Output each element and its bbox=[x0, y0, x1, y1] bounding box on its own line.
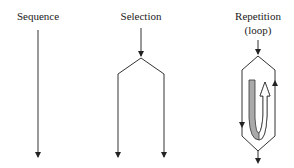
loop-down-arrowhead-icon bbox=[239, 122, 245, 128]
repetition-entry-arrowhead-icon bbox=[255, 49, 261, 55]
selection-branches bbox=[118, 58, 164, 157]
sequence-arrowhead-icon bbox=[35, 152, 41, 158]
selection-right-arrowhead-icon bbox=[161, 152, 167, 158]
selection-left-arrowhead-icon bbox=[115, 152, 121, 158]
selection-entry-arrowhead-icon bbox=[138, 51, 144, 57]
loop-return-arrow-icon bbox=[259, 82, 270, 140]
control-structures-diagram bbox=[0, 0, 294, 168]
repetition-exit-arrowhead-icon bbox=[255, 158, 261, 164]
loop-up-arrowhead-icon bbox=[272, 80, 278, 86]
